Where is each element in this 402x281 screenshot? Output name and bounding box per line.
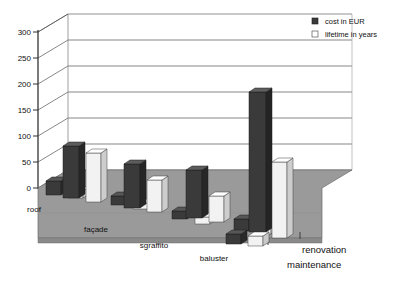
- chart-canvas: 300 250 200 150 100 50 0: [0, 0, 402, 281]
- bar-renovation-extra-cost: [226, 230, 247, 244]
- gridline-250: [38, 40, 352, 58]
- gridline-300-left: [38, 14, 68, 32]
- y-tick-label-300: 300: [18, 28, 32, 37]
- gridline-200: [38, 66, 352, 84]
- floor-front-lip: [38, 238, 322, 243]
- legend-label-lifetime: lifetime in years: [325, 30, 377, 39]
- legend-swatch-cost-icon: [312, 18, 318, 24]
- gridline-top-rim: [38, 14, 352, 32]
- chart-legend: cost in EUR lifetime in years: [312, 17, 377, 39]
- bar-renovation-extra-lifetime: [248, 232, 269, 246]
- category-label-facade: façade: [84, 225, 109, 234]
- depth-label-renovation: renovation: [302, 244, 346, 255]
- bar-renovation-sgraffito-lifetime: [147, 176, 168, 212]
- y-tick-label-50: 50: [22, 158, 31, 167]
- category-label-baluster: baluster: [200, 254, 229, 263]
- bar-maintenance-baluster-lifetime: [272, 158, 293, 238]
- bar-renovation-facade-cost: [63, 142, 85, 198]
- bar-renovation-sgraffito-cost: [124, 160, 146, 208]
- depth-label-maintenance: maintenance: [287, 259, 341, 270]
- y-tick-label-150: 150: [18, 106, 32, 115]
- bar-renovation-facade-lifetime: [86, 149, 107, 202]
- y-tick-label-250: 250: [18, 54, 32, 63]
- chart-3d-bar: 300 250 200 150 100 50 0: [0, 0, 402, 281]
- depth-labels: renovation maintenance: [287, 244, 346, 270]
- legend-swatch-lifetime-icon: [312, 31, 318, 37]
- legend-label-cost: cost in EUR: [325, 17, 365, 26]
- bar-maintenance-baluster-cost: [249, 88, 272, 232]
- y-tick-label-100: 100: [18, 132, 32, 141]
- y-tick-label-200: 200: [18, 80, 32, 89]
- category-label-roof: roof: [27, 205, 42, 214]
- bar-renovation-baluster-cost: [186, 166, 208, 218]
- gridline-100: [38, 118, 352, 136]
- bar-renovation-baluster-lifetime: [209, 192, 230, 222]
- y-axis: 300 250 200 150 100 50 0: [18, 28, 38, 193]
- y-tick-label-0: 0: [27, 184, 32, 193]
- category-label-sgraffito: sgraffito: [140, 241, 169, 250]
- gridline-150: [38, 92, 352, 110]
